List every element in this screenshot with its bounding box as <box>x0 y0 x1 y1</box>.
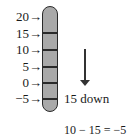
tick-divider <box>43 32 57 34</box>
movement-label: 15 down <box>64 92 109 105</box>
tick-divider <box>43 98 57 100</box>
tick-divider <box>43 66 57 68</box>
tick-divider <box>43 49 57 51</box>
scale-label-20: 20→ <box>4 10 42 23</box>
equation: 10 − 15 = −5 <box>64 124 126 136</box>
scale-label-15: 15→ <box>4 27 42 40</box>
scale-label-5: 5→ <box>4 60 42 73</box>
scale-label-0: 0→ <box>4 76 42 89</box>
scale-label-minus-5: −5→ <box>4 92 42 105</box>
tick-divider <box>43 82 57 84</box>
scale-label-10: 10→ <box>4 43 42 56</box>
thermometer <box>42 6 58 112</box>
